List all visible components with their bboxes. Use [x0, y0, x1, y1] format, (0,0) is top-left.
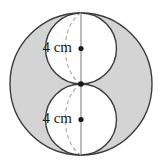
tangent-point-dot — [78, 81, 84, 87]
lower-radius-label: 4 cm — [42, 110, 72, 126]
upper-radius-label: 4 cm — [42, 39, 72, 55]
figure-canvas: 4 cm 4 cm — [0, 0, 164, 168]
upper-center-dot — [78, 46, 83, 51]
lower-center-dot — [78, 117, 83, 122]
geometry-figure: 4 cm 4 cm — [0, 0, 164, 168]
